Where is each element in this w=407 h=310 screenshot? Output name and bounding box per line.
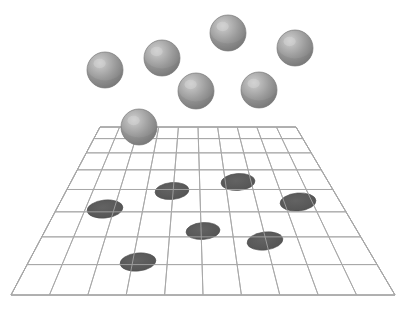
sphere — [144, 40, 180, 76]
sphere-highlight — [283, 37, 295, 46]
sphere — [121, 109, 157, 145]
sphere — [210, 15, 246, 51]
scene-background — [0, 0, 407, 310]
sphere — [87, 52, 123, 88]
sphere — [178, 73, 214, 109]
sphere-highlight — [184, 80, 196, 89]
sphere-highlight — [127, 116, 139, 125]
scene-canvas — [0, 0, 407, 310]
sphere-highlight — [93, 59, 105, 68]
sphere-highlight — [247, 79, 259, 88]
sphere — [241, 72, 277, 108]
scene-container — [0, 0, 407, 310]
sphere — [277, 30, 313, 66]
sphere-highlight — [150, 47, 162, 56]
sphere-highlight — [216, 22, 228, 31]
